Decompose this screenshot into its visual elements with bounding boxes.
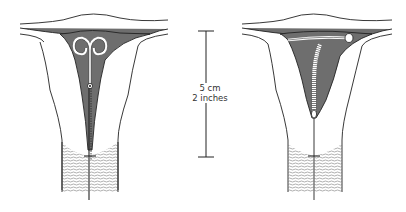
right-uterus-figure: [242, 14, 392, 200]
right-vagina-tissue: [288, 144, 342, 192]
diagram-canvas: [0, 0, 406, 212]
right-uterine-cavity: [280, 31, 372, 118]
scale-label-metric: 5 cm: [190, 83, 230, 93]
left-uterus-figure: [20, 14, 168, 200]
scale-label-imperial: 2 inches: [190, 93, 230, 103]
